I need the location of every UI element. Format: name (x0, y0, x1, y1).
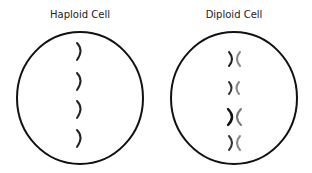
chromosome-icon (228, 109, 232, 125)
chromosome-icon (229, 52, 232, 66)
chromosome-icon (77, 73, 81, 90)
chromosome-homolog-icon (237, 82, 240, 94)
chromosome-icon (229, 136, 232, 150)
chromosome-homolog-icon (237, 136, 240, 150)
haploid-cell (17, 32, 143, 164)
diploid-chromosomes (228, 52, 241, 150)
chromosome-icon (77, 43, 81, 60)
chromosome-icon (77, 130, 81, 147)
chromosome-homolog-icon (237, 109, 241, 125)
chromosome-icon (229, 82, 232, 94)
cell-diagram (0, 0, 312, 173)
haploid-chromosomes (77, 43, 81, 147)
chromosome-homolog-icon (237, 52, 240, 66)
diploid-cell (171, 32, 297, 164)
chromosome-icon (77, 101, 81, 118)
